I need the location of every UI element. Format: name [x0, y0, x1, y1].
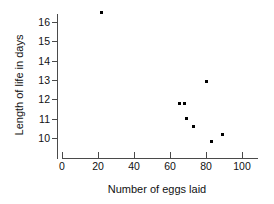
x-axis-line	[62, 158, 258, 159]
y-axis-title: Length of life in days	[10, 10, 28, 160]
x-tick-label: 80	[191, 161, 221, 172]
y-tick-mark	[52, 119, 57, 120]
plot-area: 10111213141516 020406080100	[0, 0, 274, 204]
y-tick-label: 15	[30, 36, 50, 46]
x-axis-title: Number of eggs laid	[57, 183, 257, 195]
data-point	[221, 133, 224, 136]
x-tick-label: 100	[227, 161, 257, 172]
data-point	[178, 102, 181, 105]
data-point	[192, 125, 195, 128]
y-tick-mark	[52, 99, 57, 100]
y-tick-label: 12	[30, 94, 50, 104]
data-point	[205, 80, 208, 83]
x-tick-mark	[98, 152, 99, 158]
y-tick-label: 10	[30, 133, 50, 143]
y-tick-mark	[52, 138, 57, 139]
y-tick-label: 16	[30, 17, 50, 27]
data-point	[210, 140, 213, 143]
data-point	[185, 117, 188, 120]
y-tick-mark	[52, 22, 57, 23]
y-tick-mark	[52, 80, 57, 81]
y-tick-mark	[52, 41, 57, 42]
x-tick-mark	[170, 152, 171, 158]
scatter-plot-figure: 10111213141516 020406080100 Length of li…	[0, 0, 274, 204]
x-tick-mark	[134, 152, 135, 158]
data-point	[100, 11, 103, 14]
y-tick-mark	[52, 61, 57, 62]
y-axis-line	[57, 14, 58, 159]
x-tick-mark	[242, 152, 243, 158]
y-tick-label: 13	[30, 75, 50, 85]
x-tick-label: 20	[83, 161, 113, 172]
y-tick-label: 14	[30, 56, 50, 66]
x-tick-label: 60	[155, 161, 185, 172]
x-tick-label: 0	[47, 161, 77, 172]
x-tick-mark	[62, 152, 63, 158]
x-tick-label: 40	[119, 161, 149, 172]
y-tick-label: 11	[30, 114, 50, 124]
data-point	[183, 102, 186, 105]
x-tick-mark	[206, 152, 207, 158]
